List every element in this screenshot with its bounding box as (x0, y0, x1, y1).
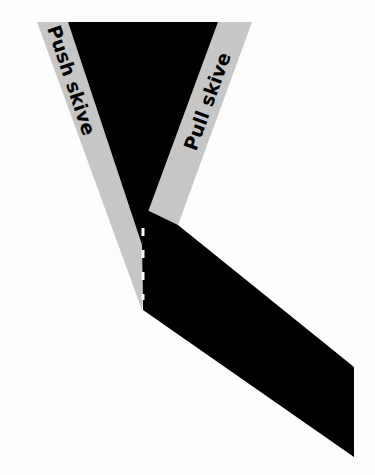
skive-diagram: Push skive Pull skive (0, 0, 375, 475)
lower-material-strip (142, 210, 354, 457)
